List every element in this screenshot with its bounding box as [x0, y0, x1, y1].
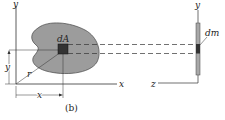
dA-label: dA [57, 34, 70, 44]
dm-label: dm [205, 28, 219, 38]
y-dimension-label: y [4, 62, 11, 72]
figure-caption: (b) [65, 103, 78, 113]
left-x-axis-label: x [119, 79, 124, 89]
left-y-axis-label: y [12, 0, 19, 9]
z-axis-label: z [150, 79, 156, 89]
y-dimension-arrow-up [8, 50, 11, 54]
left-view: y x dA r y x [4, 0, 194, 100]
dm-leader-line [200, 37, 207, 45]
x-dimension-arrow-right [59, 94, 63, 97]
x-dimension-label: x [37, 90, 42, 100]
area-moment-diagram: y x dA r y x y z dm (b) [0, 0, 225, 120]
right-y-axis-label: y [194, 0, 201, 10]
mass-element-dm [196, 44, 200, 54]
r-label: r [27, 69, 32, 79]
area-element-dA [58, 44, 68, 54]
